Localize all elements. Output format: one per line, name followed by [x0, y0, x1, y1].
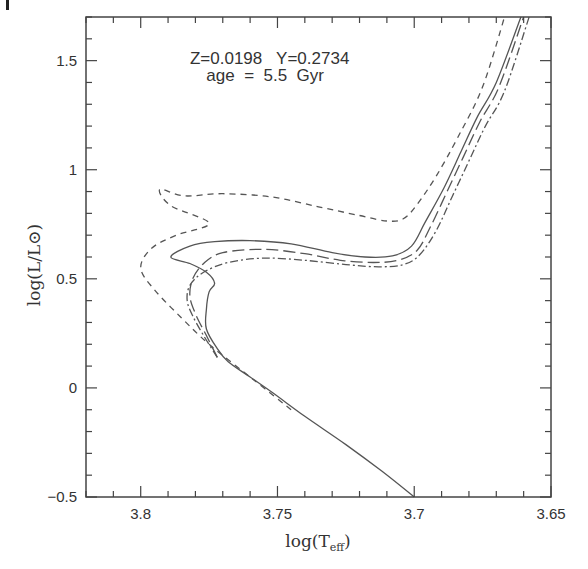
annotation-text: age = 5.5 Gyr [206, 66, 324, 85]
annotation-text: Z=0.0198 Y=0.2734 [190, 49, 349, 68]
isochrone-curves [141, 17, 529, 497]
hr-diagram-chart: 3.83.753.73.65 −0.500.511.5 Z=0.0198 Y=0… [0, 0, 588, 569]
annotations: Z=0.0198 Y=0.2734age = 5.5 Gyr [190, 49, 349, 85]
y-tick-label: −0.5 [47, 488, 77, 505]
y-tick-label: 0 [69, 379, 77, 396]
y-tick-label: 1.5 [56, 52, 77, 69]
x-tick-label: 3.75 [263, 505, 292, 522]
x-tick-label: 3.65 [536, 505, 565, 522]
x-tick-labels: 3.83.753.73.65 [130, 505, 565, 522]
x-tick-label: 3.8 [130, 505, 151, 522]
isochrone-solid [171, 17, 521, 497]
y-tick-label: 1 [69, 161, 77, 178]
x-tick-label: 3.7 [404, 505, 425, 522]
x-axis-title: log(Teff) [285, 531, 351, 554]
y-tick-labels: −0.500.511.5 [47, 52, 77, 505]
y-axis-title: log(L/L⊙) [24, 224, 44, 306]
y-tick-label: 0.5 [56, 270, 77, 287]
